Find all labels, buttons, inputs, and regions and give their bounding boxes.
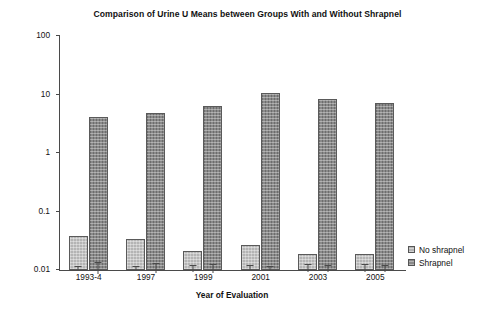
bar-shrapnel[interactable] bbox=[375, 103, 394, 270]
error-bar-line bbox=[78, 267, 79, 271]
y-tick-mark: 0.1 bbox=[56, 211, 60, 212]
error-bar-cap-top bbox=[381, 265, 388, 266]
error-bar-line bbox=[364, 265, 365, 272]
x-tick-label: 2005 bbox=[366, 272, 384, 282]
bar-no-shrapnel[interactable] bbox=[69, 236, 88, 270]
chart-legend: No shrapnelShrapnel bbox=[408, 243, 464, 269]
error-bar-line bbox=[135, 267, 136, 271]
bar-shrapnel[interactable] bbox=[203, 106, 222, 270]
y-tick-label: 1 bbox=[45, 147, 50, 157]
bar-group: 1997 bbox=[126, 36, 166, 270]
error-bar-line bbox=[327, 266, 328, 271]
error-bar-cap-top bbox=[324, 265, 331, 266]
legend-swatch-icon bbox=[408, 259, 415, 266]
x-tick-label: 1999 bbox=[194, 272, 212, 282]
error-bar-cap-top bbox=[132, 266, 139, 267]
bar-group: 1999 bbox=[183, 36, 223, 270]
error-bar-cap-top bbox=[75, 266, 82, 267]
bar-group: 2001 bbox=[241, 36, 281, 270]
bar-no-shrapnel[interactable] bbox=[126, 239, 145, 270]
bar-shrapnel[interactable] bbox=[318, 99, 337, 270]
y-tick-mark: 1 bbox=[56, 152, 60, 153]
chart-title: Comparison of Urine U Means between Grou… bbox=[0, 9, 495, 19]
bar-group: 2003 bbox=[298, 36, 338, 270]
legend-item[interactable]: Shrapnel bbox=[408, 256, 464, 269]
error-bar-cap-top bbox=[189, 265, 196, 266]
x-axis-title: Year of Evaluation bbox=[60, 290, 404, 300]
bar-group: 1993-4 bbox=[69, 36, 109, 270]
bar-no-shrapnel[interactable] bbox=[298, 254, 317, 270]
bar-group: 2005 bbox=[355, 36, 395, 270]
y-tick-label: 0.1 bbox=[38, 206, 50, 216]
error-bar-cap-top bbox=[267, 266, 274, 267]
legend-item[interactable]: No shrapnel bbox=[408, 243, 464, 256]
legend-label: Shrapnel bbox=[419, 258, 453, 268]
bar-no-shrapnel[interactable] bbox=[183, 251, 202, 270]
x-tick-label: 2001 bbox=[251, 272, 269, 282]
bar-shrapnel[interactable] bbox=[89, 117, 108, 270]
error-bar-line bbox=[192, 266, 193, 272]
error-bar-cap-top bbox=[247, 265, 254, 266]
y-tick-mark: 10 bbox=[56, 94, 60, 95]
y-tick-label: 0.01 bbox=[34, 264, 50, 274]
error-bar-line bbox=[250, 266, 251, 271]
error-bar-line bbox=[270, 267, 271, 272]
x-axis-line bbox=[59, 270, 406, 271]
x-tick-label: 1993-4 bbox=[76, 272, 102, 282]
legend-swatch-icon bbox=[408, 246, 415, 253]
error-bar-cap-top bbox=[209, 264, 216, 265]
plot-area: 1001010.10.01 1993-419971999200120032005 bbox=[60, 36, 404, 270]
bar-shrapnel[interactable] bbox=[146, 113, 165, 270]
error-bar-line bbox=[307, 265, 308, 272]
chart-figure: Comparison of Urine U Means between Grou… bbox=[0, 0, 495, 314]
bar-no-shrapnel[interactable] bbox=[355, 254, 374, 270]
y-tick-mark: 0.01 bbox=[56, 269, 60, 270]
error-bar-cap-top bbox=[304, 264, 311, 265]
bar-no-shrapnel[interactable] bbox=[241, 245, 260, 270]
y-tick-label: 10 bbox=[41, 89, 50, 99]
legend-label: No shrapnel bbox=[419, 245, 464, 255]
bar-shrapnel[interactable] bbox=[261, 93, 280, 270]
y-tick-mark: 100 bbox=[56, 35, 60, 36]
error-bar-cap-top bbox=[152, 263, 159, 264]
y-tick-label: 100 bbox=[36, 30, 50, 40]
x-tick-label: 2003 bbox=[309, 272, 327, 282]
error-bar-cap-top bbox=[95, 262, 102, 263]
x-tick-label: 1997 bbox=[137, 272, 155, 282]
error-bar-cap-top bbox=[361, 264, 368, 265]
